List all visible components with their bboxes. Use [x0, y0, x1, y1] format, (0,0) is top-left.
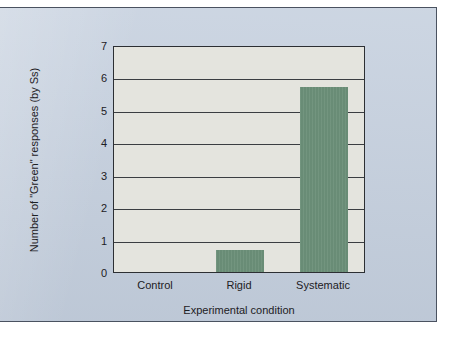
gridline — [114, 79, 364, 80]
y-tick-label: 6 — [81, 73, 107, 84]
x-axis-title: Experimental condition — [113, 304, 365, 316]
bar-rigid — [216, 250, 263, 272]
x-tick-label-rigid: Rigid — [226, 279, 251, 291]
plot-inner — [114, 47, 364, 272]
y-tick-label: 1 — [81, 235, 107, 246]
y-tick-label: 4 — [81, 138, 107, 149]
x-axis-tick-labels: ControlRigidSystematic — [113, 279, 365, 295]
y-tick-label: 7 — [81, 41, 107, 52]
figure-panel: Number of "Green" responses (by Ss) 0123… — [0, 7, 437, 322]
x-tick-label-control: Control — [137, 279, 172, 291]
x-tick-label-systematic: Systematic — [296, 279, 350, 291]
bar-texture — [216, 250, 263, 272]
y-tick-label: 3 — [81, 170, 107, 181]
y-tick-label: 2 — [81, 203, 107, 214]
plot-area — [113, 46, 365, 273]
y-tick-label: 5 — [81, 105, 107, 116]
bar-systematic — [300, 87, 347, 272]
y-tick-label: 0 — [81, 268, 107, 279]
y-axis-tick-labels: 01234567 — [79, 46, 107, 273]
bar-texture — [300, 87, 347, 272]
y-axis-title: Number of "Green" responses (by Ss) — [28, 60, 40, 260]
